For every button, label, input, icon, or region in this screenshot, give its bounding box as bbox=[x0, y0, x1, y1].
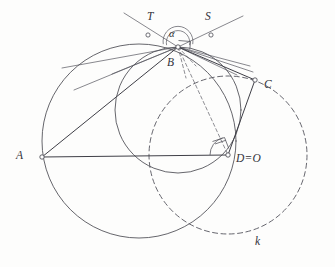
ray-from-B-left-upper bbox=[62, 47, 178, 68]
vertex-dot-A bbox=[40, 155, 44, 159]
tangent-marker-S bbox=[209, 33, 213, 37]
vertex-dot-C bbox=[253, 78, 257, 82]
geometry-figure: A B C D=O T S α k bbox=[0, 0, 335, 267]
segment-AB bbox=[42, 47, 178, 157]
segment-BC bbox=[178, 47, 255, 80]
tangent-label-T: T bbox=[147, 11, 154, 23]
point-label-C: C bbox=[264, 79, 272, 91]
segment-CD bbox=[228, 80, 255, 155]
circle-label-k: k bbox=[255, 236, 260, 248]
tangent-label-S: S bbox=[205, 11, 211, 23]
tangent-marker-T bbox=[146, 33, 150, 37]
large-solid-circle bbox=[42, 44, 236, 238]
ray-from-B-right-upper bbox=[178, 47, 253, 72]
vertex-dot-B bbox=[176, 45, 180, 49]
geometry-canvas bbox=[0, 0, 335, 267]
vertex-dot-D bbox=[226, 153, 230, 157]
point-label-A: A bbox=[16, 150, 23, 162]
ray-from-B-left-lower bbox=[74, 47, 178, 90]
ray-from-B-right-outer bbox=[178, 47, 250, 66]
angle-label-alpha: α bbox=[169, 29, 175, 40]
point-label-B: B bbox=[167, 57, 174, 69]
segment-AD bbox=[42, 155, 228, 157]
point-label-D-equals-O: D=O bbox=[236, 153, 261, 165]
